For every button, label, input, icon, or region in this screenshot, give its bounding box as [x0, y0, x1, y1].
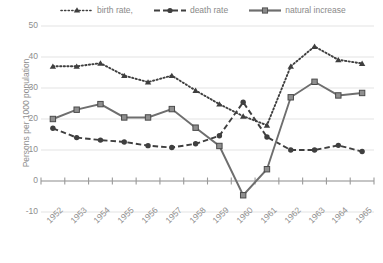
data-point-marker: [336, 143, 341, 148]
y-tick-label: 10: [14, 145, 38, 154]
data-point-marker: [169, 73, 175, 78]
y-tick-label: -10: [14, 207, 38, 216]
data-point-marker: [169, 106, 174, 111]
y-tick-label: 30: [14, 83, 38, 92]
data-point-marker: [74, 135, 79, 140]
series-line-0: [53, 46, 362, 125]
y-tick-label: 50: [14, 21, 38, 30]
y-tick-label: 20: [14, 114, 38, 123]
chart-container: birth rate, death rate natural increase …: [0, 0, 383, 263]
data-point-marker: [336, 93, 341, 98]
data-point-marker: [169, 145, 174, 150]
data-point-marker: [217, 143, 222, 148]
data-point-marker: [50, 116, 55, 121]
data-point-marker: [145, 115, 150, 120]
data-point-marker: [50, 63, 56, 68]
data-point-marker: [74, 107, 79, 112]
data-point-marker: [240, 100, 245, 105]
data-point-marker: [312, 79, 317, 84]
data-point-marker: [264, 122, 270, 127]
plot-area: [0, 0, 383, 263]
series-line-1: [53, 102, 362, 151]
data-point-marker: [312, 147, 317, 152]
data-point-marker: [264, 134, 269, 139]
data-point-marker: [264, 167, 269, 172]
data-point-marker: [145, 143, 150, 148]
data-point-marker: [97, 60, 103, 65]
data-point-marker: [359, 149, 364, 154]
data-point-marker: [193, 141, 198, 146]
y-tick-label: 0: [14, 176, 38, 185]
data-point-marker: [217, 133, 222, 138]
data-point-marker: [359, 90, 364, 95]
data-point-marker: [193, 125, 198, 130]
data-point-marker: [50, 126, 55, 131]
data-point-marker: [98, 101, 103, 106]
data-point-marker: [311, 44, 317, 49]
data-point-marker: [240, 193, 245, 198]
data-point-marker: [98, 137, 103, 142]
x-axis-ticks: [41, 178, 374, 185]
data-point-marker: [288, 95, 293, 100]
data-point-marker: [288, 147, 293, 152]
series-layer: [50, 44, 366, 198]
y-tick-label: 40: [14, 52, 38, 61]
data-point-marker: [122, 139, 127, 144]
data-point-marker: [122, 115, 127, 120]
